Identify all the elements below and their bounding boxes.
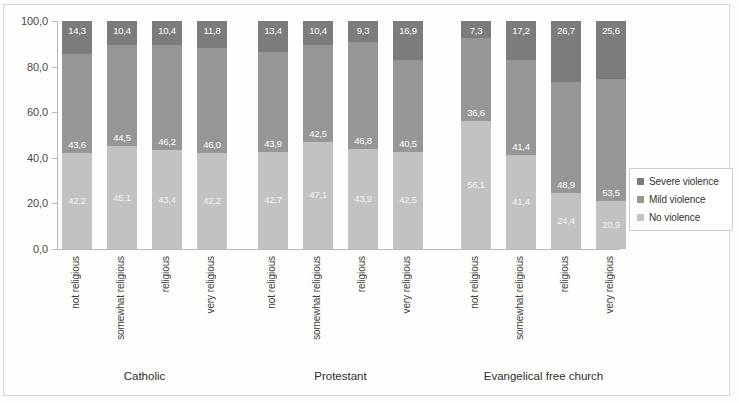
bar-segment[interactable]: 36,6 (461, 38, 491, 121)
x-axis-line (57, 249, 620, 250)
bar-segment[interactable]: 24,4 (551, 193, 581, 249)
x-category-label: somewhat religious (115, 256, 129, 340)
bar-segment[interactable]: 43,6 (62, 54, 92, 153)
bar-stack[interactable]: 10,446,243,4 (152, 21, 182, 249)
y-tick-label: 80,0 (27, 61, 48, 73)
bar-segment[interactable]: 17,2 (506, 21, 536, 60)
bar-segment[interactable]: 11,8 (197, 21, 227, 48)
bar-segment-label: 46,8 (348, 135, 378, 146)
x-category-label: very religious (205, 256, 219, 314)
bar-segment[interactable]: 41,4 (506, 155, 536, 249)
bar-segment-label: 42,2 (197, 195, 227, 206)
x-group-label: Evangelical free church (484, 370, 604, 382)
bar-segment-label: 9,3 (348, 25, 378, 36)
bar-segment[interactable]: 40,5 (393, 60, 423, 152)
bar-segment[interactable]: 43,9 (348, 149, 378, 249)
x-category-label: religious (356, 256, 370, 292)
bar-segment[interactable]: 53,5 (596, 79, 626, 201)
bar-segment[interactable]: 46,8 (348, 42, 378, 149)
x-group-label: Catholic (124, 370, 166, 382)
bar-segment[interactable]: 56,1 (461, 121, 491, 249)
bar-stack[interactable]: 16,940,542,5 (393, 21, 423, 249)
bar-stack[interactable]: 25,653,520,9 (596, 21, 626, 249)
y-tick-label: 40,0 (27, 152, 48, 164)
legend-swatch-icon (637, 214, 644, 221)
bar-segment[interactable]: 25,6 (596, 21, 626, 79)
bar-segment[interactable]: 42,5 (303, 45, 333, 142)
bar-segment[interactable]: 43,9 (258, 52, 288, 152)
bar-segment-label: 41,4 (506, 196, 536, 207)
legend-label: No violence (649, 212, 700, 223)
bar-segment-label: 11,8 (197, 25, 227, 36)
bar-stack[interactable]: 10,444,545,1 (107, 21, 137, 249)
bar-segment-label: 40,5 (393, 138, 423, 149)
y-tick-label: 60,0 (27, 106, 48, 118)
y-tick-label-wrap: 0,0 (6, 243, 48, 255)
bar-segment-label: 7,3 (461, 25, 491, 36)
legend-item[interactable]: Severe violence (637, 176, 726, 187)
bar-stack[interactable]: 13,443,942,7 (258, 21, 288, 249)
bar-segment-label: 43,6 (62, 139, 92, 150)
bar-segment[interactable]: 48,9 (551, 82, 581, 193)
bar-stack[interactable]: 9,346,843,9 (348, 21, 378, 249)
legend-label: Mild violence (649, 194, 706, 205)
bar-segment-label: 24,4 (551, 215, 581, 226)
bar-segment[interactable]: 10,4 (303, 21, 333, 45)
bar-segment[interactable]: 26,7 (551, 21, 581, 82)
x-category-label: very religious (604, 256, 618, 314)
bar-stack[interactable]: 10,442,547,1 (303, 21, 333, 249)
x-group-label: Protestant (314, 370, 366, 382)
bar-segment[interactable]: 14,3 (62, 21, 92, 54)
bar-segment-label: 13,4 (258, 25, 288, 36)
bar-segment-label: 10,4 (303, 25, 333, 36)
bar-segment[interactable]: 7,3 (461, 21, 491, 38)
bar-segment[interactable]: 42,5 (393, 152, 423, 249)
legend-swatch-icon (637, 178, 644, 185)
bar-segment[interactable]: 10,4 (107, 21, 137, 45)
legend-item[interactable]: Mild violence (637, 194, 726, 205)
chart-legend: Severe violenceMild violenceNo violence (629, 168, 733, 231)
bar-segment[interactable]: 47,1 (303, 142, 333, 249)
bar-segment-label: 53,5 (596, 187, 626, 198)
x-category-label: somewhat religious (514, 256, 528, 340)
bar-stack[interactable]: 7,336,656,1 (461, 21, 491, 249)
bar-segment-label: 44,5 (107, 132, 137, 143)
plot-area: 14,343,642,210,444,545,110,446,243,411,8… (57, 21, 620, 249)
bar-stack[interactable]: 17,241,441,4 (506, 21, 536, 249)
legend-item[interactable]: No violence (637, 212, 726, 223)
legend-swatch-icon (637, 196, 644, 203)
bar-segment-label: 25,6 (596, 25, 626, 36)
bar-segment[interactable]: 46,2 (152, 45, 182, 150)
bar-segment[interactable]: 45,1 (107, 146, 137, 249)
bar-segment[interactable]: 43,4 (152, 150, 182, 249)
bar-segment-label: 42,7 (258, 194, 288, 205)
bar-segment-label: 10,4 (152, 25, 182, 36)
bar-segment[interactable]: 16,9 (393, 21, 423, 60)
y-tick-label-wrap: 20,0 (6, 197, 48, 209)
bar-segment-label: 42,2 (62, 195, 92, 206)
bar-segment-label: 43,9 (348, 193, 378, 204)
bar-stack[interactable]: 14,343,642,2 (62, 21, 92, 249)
x-category-label: not religious (469, 256, 483, 309)
bar-segment[interactable]: 42,2 (62, 153, 92, 249)
x-category-label: very religious (401, 256, 415, 314)
chart-container: 100,080,060,040,020,00,0 14,343,642,210,… (0, 0, 739, 403)
bar-segment[interactable]: 44,5 (107, 45, 137, 146)
bar-segment[interactable]: 9,3 (348, 21, 378, 42)
bar-segment-label: 36,6 (461, 107, 491, 118)
bar-segment[interactable]: 41,4 (506, 60, 536, 154)
y-tick-label-wrap: 40,0 (6, 152, 48, 164)
bar-stack[interactable]: 11,846,042,2 (197, 21, 227, 249)
bar-segment[interactable]: 42,2 (197, 153, 227, 249)
y-tick-label: 100,0 (21, 15, 48, 27)
bar-segment-label: 43,4 (152, 194, 182, 205)
bar-segment-label: 46,0 (197, 139, 227, 150)
x-category-label: somewhat religious (311, 256, 325, 340)
bar-segment[interactable]: 10,4 (152, 21, 182, 45)
bar-segment[interactable]: 13,4 (258, 21, 288, 52)
bar-stack[interactable]: 26,748,924,4 (551, 21, 581, 249)
bar-segment[interactable]: 20,9 (596, 201, 626, 249)
bar-segment[interactable]: 42,7 (258, 152, 288, 249)
bar-segment[interactable]: 46,0 (197, 48, 227, 153)
y-tick-label: 0,0 (33, 243, 48, 255)
